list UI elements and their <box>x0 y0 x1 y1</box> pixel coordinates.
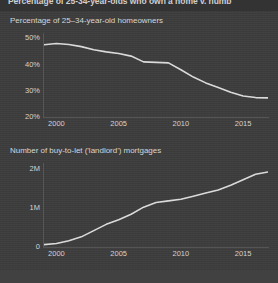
x-axis-tick-label: 2015 <box>235 120 252 128</box>
plot-area-mortgages: 2M1M02000200520102015 <box>44 163 268 247</box>
y-axis-tick-label: 50% <box>25 35 40 43</box>
window-title-band: Percentage of 25-34-year-olds who own a … <box>0 0 278 11</box>
y-axis-tick-label: 1M <box>30 204 40 212</box>
footer-band <box>0 271 278 283</box>
y-axis-tick-label: 40% <box>25 61 40 69</box>
x-axis-line <box>43 247 269 248</box>
x-axis-tick-label: 2005 <box>110 250 127 258</box>
plot-area-homeowners: 50%40%30%20%2000200520102015 <box>44 33 268 117</box>
y-axis-tick-label: 20% <box>25 113 40 121</box>
x-axis-tick-label: 2010 <box>173 120 190 128</box>
series-line-1 <box>44 163 268 247</box>
data-line <box>44 172 268 245</box>
chart-title-mortgages: Number of buy-to-let ('landlord') mortga… <box>10 146 161 155</box>
figure-container: Percentage of 25–34-year-old homeowners … <box>0 11 278 271</box>
y-axis-tick-label: 30% <box>25 87 40 95</box>
x-axis-line <box>43 117 269 118</box>
page-title: Percentage of 25-34-year-olds who own a … <box>8 0 232 6</box>
data-line <box>44 44 268 98</box>
x-axis-tick-label: 2010 <box>173 250 190 258</box>
chart-panel-mortgages: Number of buy-to-let ('landlord') mortga… <box>0 141 278 271</box>
x-axis-tick-label: 2015 <box>235 250 252 258</box>
series-line-0 <box>44 33 268 117</box>
x-axis-tick-label: 2005 <box>110 120 127 128</box>
y-axis-tick-label: 0 <box>36 243 40 251</box>
x-axis-tick-label: 2000 <box>48 120 65 128</box>
x-axis-tick-label: 2000 <box>48 250 65 258</box>
y-axis-tick-label: 2M <box>30 165 40 173</box>
chart-panel-homeowners: Percentage of 25–34-year-old homeowners … <box>0 11 278 141</box>
y-axis-line <box>43 163 44 247</box>
y-axis-line <box>43 33 44 117</box>
chart-title-homeowners: Percentage of 25–34-year-old homeowners <box>10 16 163 25</box>
